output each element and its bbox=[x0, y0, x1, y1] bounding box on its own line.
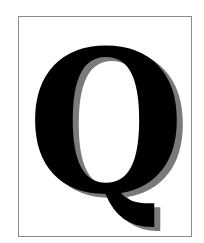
letter-q: Q bbox=[26, 25, 186, 237]
letter-frame: Q Q bbox=[18, 16, 192, 237]
